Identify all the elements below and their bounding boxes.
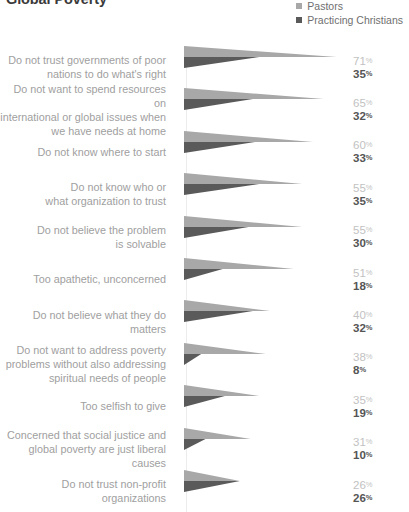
- row-values: 31%10%: [346, 436, 409, 461]
- bar-wedge-practicing-christians: [184, 142, 255, 153]
- chart-row: Do not know where to start60%33%: [0, 131, 409, 173]
- value-pastors-number: 38: [353, 351, 366, 363]
- value-pastors: 51%: [353, 267, 409, 279]
- bar-wedge-pastors: [184, 385, 259, 396]
- bar-wedge-pastors: [184, 470, 240, 481]
- percent-sign: %: [366, 450, 373, 459]
- row-bars: [184, 46, 346, 88]
- bar-wedge-pastors: [184, 131, 313, 142]
- row-label: Do not want to address poverty problems …: [0, 343, 176, 385]
- chart-row: Do not trust non-profit organizations26%…: [0, 470, 409, 512]
- value-pastors-number: 35: [353, 394, 366, 406]
- value-pastors-number: 55: [353, 224, 366, 236]
- bar-wedge-pastors: [184, 300, 270, 311]
- row-label: Do not want to spend resources on intern…: [0, 82, 176, 138]
- percent-sign: %: [366, 140, 373, 149]
- value-practicing-christians: 18%: [353, 280, 409, 292]
- legend-label-practicing-christians: Practicing Christians: [307, 15, 403, 26]
- value-practicing-christians: 35%: [353, 68, 409, 80]
- value-practicing-christians-number: 30: [353, 237, 366, 249]
- chart-row: Do not believe what they do matters40%32…: [0, 300, 409, 342]
- bar-wedge-pastors: [184, 428, 251, 439]
- legend-item-pastors: Pastors: [296, 1, 343, 12]
- page-title: Global Poverty: [6, 0, 107, 7]
- row-bars: [184, 343, 346, 385]
- value-pastors: 60%: [353, 139, 409, 151]
- chart-legend: Pastors Practicing Christians: [296, 1, 403, 25]
- value-practicing-christians: 32%: [353, 322, 409, 334]
- chart-row: Do not know who or what organization to …: [0, 173, 409, 215]
- value-practicing-christians: 8%: [353, 364, 409, 376]
- bar-wedge-practicing-christians: [184, 311, 253, 322]
- row-bars: [184, 216, 346, 258]
- row-values: 35%19%: [346, 394, 409, 419]
- value-pastors-number: 65: [353, 97, 366, 109]
- bar-wedge-practicing-christians: [184, 184, 259, 195]
- row-bars: [184, 470, 346, 512]
- chart-row: Do not believe the problem is solvable55…: [0, 216, 409, 258]
- chart-row: Too selfish to give35%19%: [0, 385, 409, 427]
- square-swatch-icon: [296, 17, 302, 23]
- value-practicing-christians-number: 33: [353, 152, 366, 164]
- value-pastors-number: 26: [353, 479, 366, 491]
- value-practicing-christians: 30%: [353, 237, 409, 249]
- percent-sign: %: [366, 395, 373, 404]
- percent-sign: %: [366, 196, 373, 205]
- chart-row: Concerned that social justice and global…: [0, 428, 409, 470]
- chart-row: Do not want to spend resources on intern…: [0, 88, 409, 130]
- value-practicing-christians-number: 19: [353, 407, 366, 419]
- value-practicing-christians-number: 35: [353, 195, 366, 207]
- row-label: Too apathetic, unconcerned: [0, 272, 176, 286]
- value-practicing-christians-number: 32: [353, 110, 366, 122]
- row-values: 40%32%: [346, 309, 409, 334]
- chart-page: Global Poverty Pastors Practicing Christ…: [0, 0, 409, 512]
- value-practicing-christians: 35%: [353, 195, 409, 207]
- value-practicing-christians: 33%: [353, 152, 409, 164]
- value-practicing-christians: 10%: [353, 449, 409, 461]
- value-practicing-christians: 32%: [353, 110, 409, 122]
- chart-row: Too apathetic, unconcerned51%18%: [0, 258, 409, 300]
- row-label: Do not believe what they do matters: [0, 308, 176, 336]
- row-values: 55%35%: [346, 182, 409, 207]
- value-practicing-christians: 26%: [353, 492, 409, 504]
- percent-sign: %: [366, 69, 373, 78]
- value-pastors: 55%: [353, 224, 409, 236]
- value-practicing-christians-number: 18: [353, 280, 366, 292]
- row-values: 51%18%: [346, 267, 409, 292]
- bar-wedge-practicing-christians: [184, 269, 223, 280]
- percent-sign: %: [366, 310, 373, 319]
- value-pastors-number: 71: [353, 55, 366, 67]
- row-label: Too selfish to give: [0, 399, 176, 413]
- chart-row: Do not want to address poverty problems …: [0, 343, 409, 385]
- bar-wedge-pastors: [184, 216, 302, 227]
- value-pastors: 55%: [353, 182, 409, 194]
- value-practicing-christians-number: 35: [353, 68, 366, 80]
- row-values: 26%26%: [346, 479, 409, 504]
- bar-wedge-practicing-christians: [184, 227, 249, 238]
- percent-sign: %: [366, 153, 373, 162]
- row-label: Do not trust non-profit organizations: [0, 477, 176, 505]
- value-pastors-number: 31: [353, 436, 366, 448]
- percent-sign: %: [366, 56, 373, 65]
- chart-rows: Do not trust governments of poor nations…: [0, 46, 409, 512]
- value-pastors: 35%: [353, 394, 409, 406]
- bar-wedge-practicing-christians: [184, 57, 259, 68]
- bar-wedge-pastors: [184, 88, 324, 99]
- bar-wedge-pastors: [184, 46, 337, 57]
- bar-wedge-practicing-christians: [184, 396, 225, 407]
- value-pastors-number: 51: [353, 267, 366, 279]
- percent-sign: %: [366, 493, 373, 502]
- value-pastors: 26%: [353, 479, 409, 491]
- row-bars: [184, 385, 346, 427]
- value-practicing-christians-number: 26: [353, 492, 366, 504]
- row-values: 38%8%: [346, 351, 409, 376]
- row-bars: [184, 131, 346, 173]
- percent-sign: %: [366, 183, 373, 192]
- row-values: 65%32%: [346, 97, 409, 122]
- percent-sign: %: [366, 267, 373, 276]
- value-practicing-christians-number: 32: [353, 322, 366, 334]
- bar-wedge-pastors: [184, 173, 302, 184]
- row-label: Do not trust governments of poor nations…: [0, 53, 176, 81]
- percent-sign: %: [366, 437, 373, 446]
- row-bars: [184, 88, 346, 130]
